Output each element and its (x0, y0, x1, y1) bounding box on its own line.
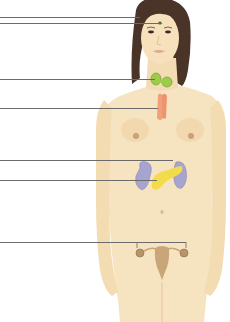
ovary-right (180, 249, 188, 257)
head (141, 12, 179, 64)
ovary-left (136, 249, 144, 257)
leader-line-pineal (0, 17, 140, 18)
thymus-gland (157, 94, 167, 121)
leader-line-pituitary (0, 23, 162, 24)
leader-line-adrenal (0, 160, 173, 161)
leader-line-pancreas (0, 180, 157, 181)
leader-line-ovaries (0, 242, 186, 243)
left-eye (148, 31, 154, 34)
figure-illustration (0, 0, 230, 322)
endocrine-diagram (0, 0, 230, 322)
leader-line-thymus (0, 108, 158, 109)
leader-line-thyroid (0, 79, 155, 80)
right-eye (165, 31, 171, 34)
